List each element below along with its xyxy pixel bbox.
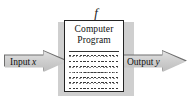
title-divider (69, 51, 119, 52)
program-title-line-1: Computer (65, 24, 123, 35)
computer-program-box: Computer Program (64, 20, 124, 92)
function-label: f (86, 6, 106, 20)
code-line (69, 77, 119, 79)
code-line (69, 82, 119, 84)
code-line (69, 71, 119, 73)
input-arrow-label: Input (10, 57, 30, 67)
code-line (69, 87, 119, 89)
output-variable: y (153, 57, 159, 67)
program-title: Computer Program (65, 24, 123, 46)
code-line (69, 60, 119, 62)
code-line (69, 66, 119, 68)
input-variable: x (30, 57, 36, 67)
program-title-line-2: Program (65, 35, 123, 46)
code-line (69, 55, 119, 57)
output-arrow-label: Output (127, 57, 153, 67)
program-code-lines (69, 55, 119, 87)
diagram-canvas: f Input x Output y Computer Program (0, 0, 193, 102)
